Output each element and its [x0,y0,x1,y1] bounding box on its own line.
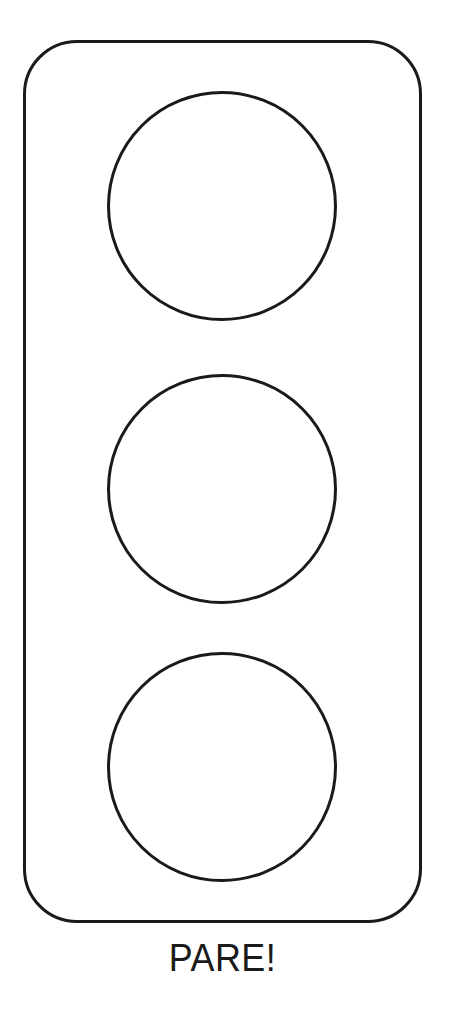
caption-pare: PARE! [39,936,406,980]
traffic-light-top-circle [107,91,337,321]
worksheet-page: PARE! [0,0,451,1025]
traffic-light-bottom-circle [107,652,337,882]
traffic-light-middle-circle [107,374,337,604]
